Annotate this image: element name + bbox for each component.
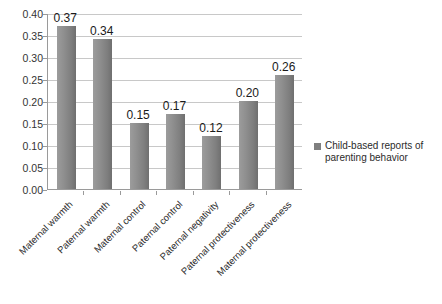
- x-tick-mark: [120, 191, 121, 195]
- x-tick-mark: [229, 191, 230, 195]
- bar-value-label: 0.15: [118, 109, 158, 121]
- x-tick-mark: [83, 191, 84, 195]
- x-tick-mark: [193, 191, 194, 195]
- bar-value-label: 0.20: [227, 87, 267, 99]
- legend-label-line-2: parenting behavior: [325, 152, 408, 163]
- x-tick-mark: [156, 191, 157, 195]
- bar-chart: 0.000.050.100.150.200.250.300.350.40 Mat…: [0, 0, 442, 304]
- x-tick-mark: [266, 191, 267, 195]
- bar-value-label: 0.26: [264, 61, 304, 73]
- bar-value-label: 0.34: [82, 25, 122, 37]
- bar-value-label: 0.12: [191, 122, 231, 134]
- chart-legend: Child-based reports of parenting behavio…: [314, 140, 440, 164]
- legend-entry-label: Child-based reports of parenting behavio…: [325, 140, 423, 164]
- bar-value-label: 0.17: [155, 100, 195, 112]
- bar-value-label: 0.37: [45, 12, 85, 24]
- legend-swatch-icon: [314, 143, 321, 150]
- legend-label-line-1: Child-based reports of: [325, 140, 423, 151]
